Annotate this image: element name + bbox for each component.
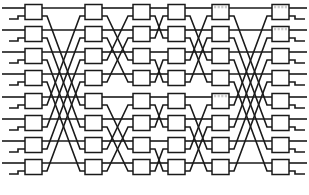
switch-box[interactable]	[25, 138, 42, 153]
output-lead-lower	[289, 171, 305, 174]
switch-box[interactable]	[168, 138, 185, 153]
switch-box[interactable]	[272, 71, 289, 86]
switch-box[interactable]	[85, 160, 102, 175]
wire-cross	[229, 82, 272, 171]
switch-box[interactable]	[85, 138, 102, 153]
switch-box[interactable]	[133, 94, 150, 109]
output-lead-lower	[289, 127, 305, 130]
switch-box[interactable]	[133, 160, 150, 175]
switch-box[interactable]	[272, 116, 289, 131]
output-lead-lower	[289, 82, 305, 85]
box-texture-mark	[274, 28, 276, 31]
box-texture-mark	[221, 6, 223, 9]
switch-box[interactable]	[25, 116, 42, 131]
switch-box[interactable]	[25, 71, 42, 86]
input-lead-lower	[9, 149, 25, 152]
output-lead-lower	[289, 16, 305, 19]
box-texture-mark	[278, 6, 280, 9]
box-texture-mark	[278, 28, 280, 31]
switch-box[interactable]	[168, 94, 185, 109]
switch-box[interactable]	[212, 116, 229, 131]
output-lead-lower	[289, 60, 305, 63]
switch-box[interactable]	[133, 5, 150, 20]
switch-box[interactable]	[85, 27, 102, 42]
box-texture-mark	[218, 6, 220, 9]
box-texture-mark	[214, 6, 216, 9]
input-lead-lower	[9, 171, 25, 174]
switch-box[interactable]	[272, 138, 289, 153]
network-diagram-canvas	[0, 0, 309, 195]
box-texture-mark	[225, 95, 227, 98]
switch-box[interactable]	[133, 27, 150, 42]
switch-box[interactable]	[168, 116, 185, 131]
box-texture-mark	[225, 6, 227, 9]
wire-cross	[42, 82, 85, 171]
switch-box[interactable]	[168, 71, 185, 86]
switch-box[interactable]	[85, 116, 102, 131]
switch-box[interactable]	[85, 49, 102, 64]
switch-box[interactable]	[133, 138, 150, 153]
switch-box[interactable]	[85, 94, 102, 109]
box-texture-mark	[274, 6, 276, 9]
box-texture-mark	[281, 28, 283, 31]
switch-box[interactable]	[168, 160, 185, 175]
box-texture-mark	[281, 6, 283, 9]
input-lead-lower	[9, 16, 25, 19]
switch-box[interactable]	[212, 138, 229, 153]
switch-box[interactable]	[212, 160, 229, 175]
input-lead-lower	[9, 127, 25, 130]
switch-box[interactable]	[133, 71, 150, 86]
switch-box[interactable]	[272, 94, 289, 109]
wire-cross	[150, 149, 168, 171]
network-diagram-figure	[0, 0, 309, 195]
wire-cross	[150, 16, 168, 38]
switch-box[interactable]	[168, 27, 185, 42]
box-texture-mark	[218, 95, 220, 98]
input-lead-lower	[9, 60, 25, 63]
input-lead-lower	[9, 82, 25, 85]
output-lead-lower	[289, 38, 305, 41]
switch-box[interactable]	[212, 71, 229, 86]
switch-box[interactable]	[212, 49, 229, 64]
wire-cross	[150, 60, 168, 82]
wire-cross	[150, 105, 168, 127]
switch-box[interactable]	[168, 49, 185, 64]
switch-box[interactable]	[25, 27, 42, 42]
switch-box[interactable]	[25, 160, 42, 175]
box-texture-mark	[221, 95, 223, 98]
input-lead-lower	[9, 105, 25, 108]
switch-box[interactable]	[85, 5, 102, 20]
switch-box[interactable]	[133, 116, 150, 131]
switch-box[interactable]	[25, 49, 42, 64]
box-texture-mark	[285, 6, 287, 9]
wire-layer	[2, 8, 307, 174]
box-texture-mark	[285, 28, 287, 31]
switch-box[interactable]	[168, 5, 185, 20]
switch-box[interactable]	[133, 49, 150, 64]
input-lead-lower	[9, 38, 25, 41]
switch-box[interactable]	[25, 94, 42, 109]
box-texture-mark	[214, 95, 216, 98]
output-lead-lower	[289, 105, 305, 108]
switch-box[interactable]	[25, 5, 42, 20]
switch-box[interactable]	[272, 160, 289, 175]
switch-box[interactable]	[212, 27, 229, 42]
switch-box[interactable]	[272, 49, 289, 64]
output-lead-lower	[289, 149, 305, 152]
switch-box[interactable]	[85, 71, 102, 86]
